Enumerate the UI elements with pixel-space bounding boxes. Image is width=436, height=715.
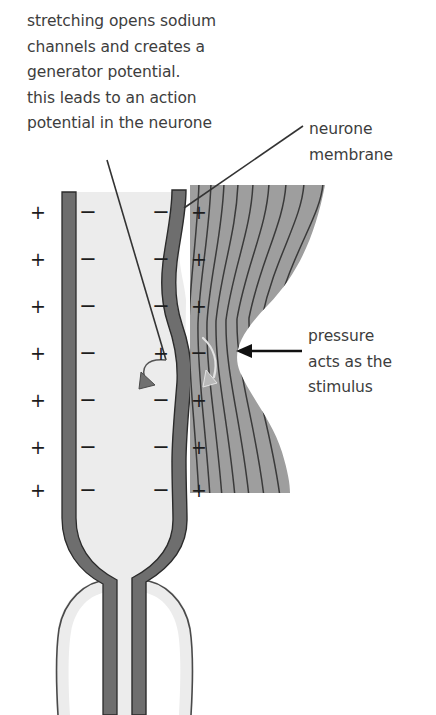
charge-sign-inner-right-4: + xyxy=(153,344,169,363)
charge-sign-outer-left-6: + xyxy=(30,438,46,457)
charge-sign-outer-left-4: + xyxy=(30,344,46,363)
charge-sign-outer-right-5: + xyxy=(191,391,207,410)
charge-sign-outer-right-4: − xyxy=(190,344,208,363)
pressure-stimulus-arrow xyxy=(236,344,302,358)
charge-sign-inner-left-2: − xyxy=(79,250,97,269)
charge-sign-outer-right-1: + xyxy=(191,203,207,222)
charge-sign-outer-right-3: + xyxy=(191,297,207,316)
charge-sign-inner-right-7: − xyxy=(152,481,170,500)
charge-sign-inner-right-2: − xyxy=(152,250,170,269)
generator-potential-caption: stretching opens sodium channels and cre… xyxy=(27,9,216,137)
charge-sign-outer-left-2: + xyxy=(30,250,46,269)
charge-sign-inner-left-7: − xyxy=(79,481,97,500)
charge-sign-inner-left-1: − xyxy=(79,203,97,222)
diagram-canvas: stretching opens sodium channels and cre… xyxy=(0,0,436,715)
charge-sign-inner-left-3: − xyxy=(79,297,97,316)
charge-sign-inner-right-3: − xyxy=(152,297,170,316)
charge-sign-inner-right-1: − xyxy=(152,203,170,222)
charge-sign-outer-left-5: + xyxy=(30,391,46,410)
charge-sign-outer-right-6: + xyxy=(191,438,207,457)
charge-sign-outer-right-2: + xyxy=(191,250,207,269)
charge-sign-inner-left-4: − xyxy=(79,344,97,363)
pressure-stimulus-label: pressure acts as the stimulus xyxy=(308,324,392,401)
charge-sign-outer-left-1: + xyxy=(30,203,46,222)
charge-sign-inner-left-6: − xyxy=(79,438,97,457)
neurone-membrane-label: neurone membrane xyxy=(309,117,393,168)
charge-sign-outer-right-7: + xyxy=(191,481,207,500)
charge-sign-inner-right-5: − xyxy=(152,391,170,410)
charge-sign-inner-left-5: − xyxy=(79,391,97,410)
charge-sign-outer-left-3: + xyxy=(30,297,46,316)
charge-sign-outer-left-7: + xyxy=(30,481,46,500)
charge-sign-inner-right-6: − xyxy=(152,438,170,457)
